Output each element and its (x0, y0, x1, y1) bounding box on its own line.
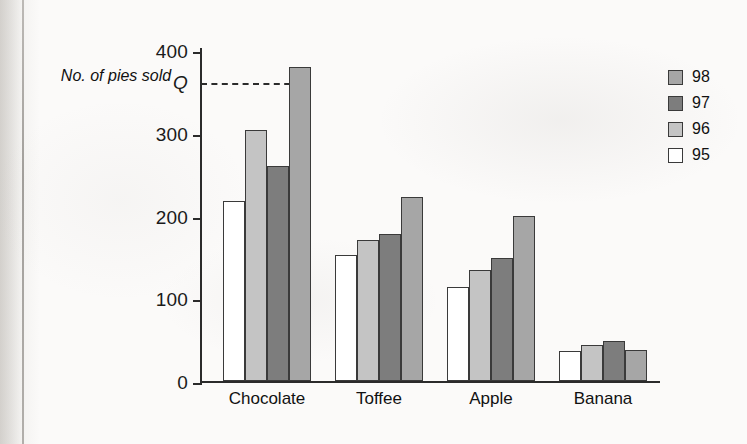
bar-group: Apple (438, 50, 544, 381)
bar-97-apple[interactable] (491, 258, 513, 381)
legend-label: 97 (692, 94, 710, 112)
legend-item-96[interactable]: 96 (668, 120, 710, 138)
x-category-label: Chocolate (229, 389, 306, 409)
bar-96-banana[interactable] (581, 345, 603, 381)
y-tick (193, 135, 200, 137)
y-tick-label: 300 (156, 124, 188, 146)
y-axis-title: No. of pies sold (46, 66, 186, 86)
y-tick (193, 300, 200, 302)
bar-98-toffee[interactable] (401, 197, 423, 381)
bar-group: Toffee (326, 50, 432, 381)
legend-label: 98 (692, 68, 710, 86)
bar-98-banana[interactable] (625, 350, 647, 381)
bar-95-chocolate[interactable] (223, 201, 245, 381)
y-tick-label: 200 (156, 207, 188, 229)
x-category-label: Banana (574, 389, 633, 409)
y-tick-label: 400 (156, 41, 188, 63)
y-tick (193, 52, 200, 54)
y-tick-label: 0 (177, 372, 188, 394)
legend-swatch-icon (668, 148, 683, 163)
bar-97-toffee[interactable] (379, 234, 401, 381)
bar-97-chocolate[interactable] (267, 166, 289, 381)
bar-group: Banana (550, 50, 656, 381)
y-tick (193, 383, 200, 385)
plot-area: 0100200300400 Q ChocolateToffeeAppleBana… (200, 50, 650, 383)
bar-95-banana[interactable] (559, 351, 581, 381)
legend-label: 96 (692, 120, 710, 138)
chart-legend: 98979695 (668, 68, 710, 164)
bar-95-apple[interactable] (447, 287, 469, 381)
bar-98-chocolate[interactable] (289, 67, 311, 381)
bar-95-toffee[interactable] (335, 255, 357, 381)
bar-96-toffee[interactable] (357, 240, 379, 381)
bar-96-chocolate[interactable] (245, 130, 267, 381)
bar-group: Chocolate (214, 50, 320, 381)
x-category-label: Apple (469, 389, 512, 409)
bar-98-apple[interactable] (513, 216, 535, 381)
bar-97-banana[interactable] (603, 341, 625, 381)
legend-item-97[interactable]: 97 (668, 94, 710, 112)
legend-item-98[interactable]: 98 (668, 68, 710, 86)
x-category-label: Toffee (356, 389, 402, 409)
x-axis-line (200, 381, 660, 383)
y-tick (193, 218, 200, 220)
legend-swatch-icon (668, 122, 683, 137)
bar-groups: ChocolateToffeeAppleBanana (200, 50, 650, 381)
legend-item-95[interactable]: 95 (668, 146, 710, 164)
y-tick-label: 100 (156, 289, 188, 311)
bar-chart: No. of pies sold 0100200300400 Q Chocola… (0, 0, 747, 444)
bar-96-apple[interactable] (469, 270, 491, 381)
legend-label: 95 (692, 146, 710, 164)
q-axis-label: Q (173, 72, 188, 94)
legend-swatch-icon (668, 96, 683, 111)
legend-swatch-icon (668, 70, 683, 85)
